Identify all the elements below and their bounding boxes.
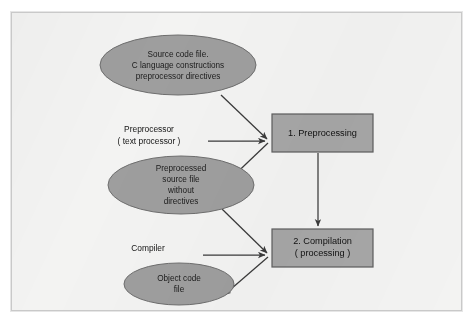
arrow-preprocessed-file-to-compilation [222, 209, 267, 253]
edge-label-preprocessor: Preprocessor ( text processor ) [118, 124, 181, 146]
diagram-frame: Source code file. C language constructio… [11, 12, 462, 311]
object-file-line-1: Object code [157, 274, 201, 283]
node-compilation-step[interactable]: 2. Compilation ( processing ) [272, 229, 373, 267]
node-preprocessed-file[interactable]: Preprocessed source file without directi… [108, 156, 254, 214]
source-file-line-1: Source code file. [148, 50, 209, 59]
edge-label-compiler: Compiler [131, 243, 165, 253]
compilation-step-line-2: ( processing ) [295, 248, 351, 258]
diagram-canvas: Source code file. C language constructio… [12, 13, 463, 312]
node-object-file[interactable]: Object code file [124, 263, 234, 305]
node-source-file[interactable]: Source code file. C language constructio… [100, 35, 256, 95]
compilation-step-line-1: 2. Compilation [293, 236, 352, 246]
compiler-label-line-1: Compiler [131, 243, 165, 253]
object-file-line-2: file [174, 285, 185, 294]
preprocessed-file-line-4: directives [164, 197, 199, 206]
preprocessor-label-line-1: Preprocessor [124, 124, 174, 134]
node-preprocessing-step[interactable]: 1. Preprocessing [272, 114, 373, 152]
preprocessor-label-line-2: ( text processor ) [118, 136, 181, 146]
preprocessed-file-line-1: Preprocessed [156, 164, 207, 173]
source-file-line-3: preprocessor directives [136, 72, 221, 81]
preprocessing-step-label: 1. Preprocessing [288, 128, 357, 138]
preprocessed-file-line-2: source file [162, 175, 200, 184]
object-file-ellipse[interactable] [124, 263, 234, 305]
source-file-line-2: C language constructions [132, 61, 224, 70]
arrow-source-to-preprocessing [221, 95, 267, 139]
preprocessed-file-line-3: without [167, 186, 195, 195]
screenshot-root: Source code file. C language constructio… [0, 0, 476, 327]
